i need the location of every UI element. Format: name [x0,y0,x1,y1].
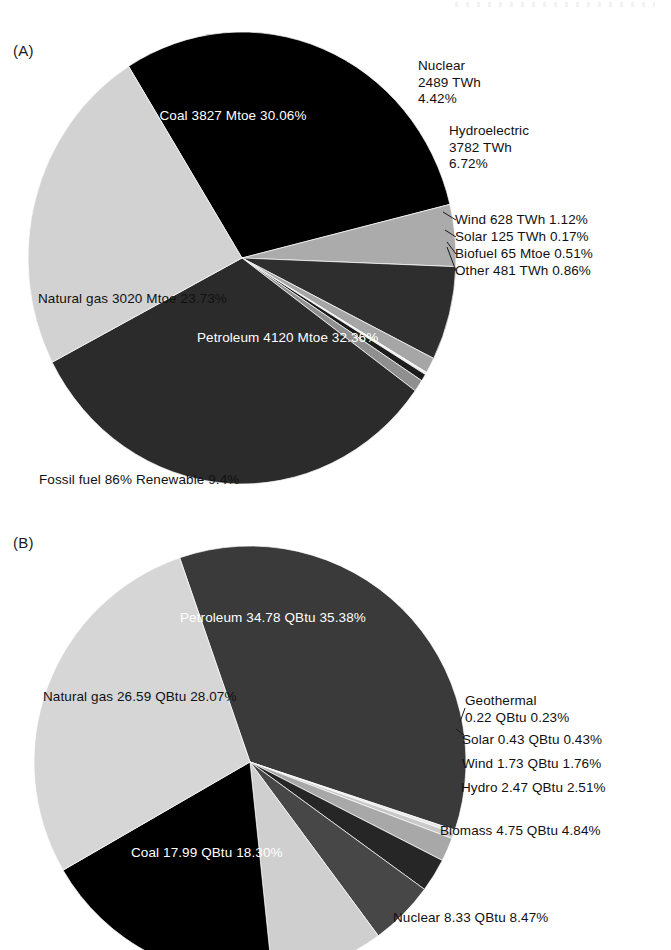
panel-b: (B) Petroleum 34.78 QBtu 35.38% Natural … [0,510,671,950]
slice-label-coal-b: Coal 17.99 QBtu 18.30% [131,845,281,862]
outer-label-nuclear-a: Nuclear 2489 TWh 4.42% [418,58,481,108]
outer-label-solar-a: Solar 125 TWh 0.17% [455,229,589,246]
outer-label-other-a: Other 481 TWh 0.86% [455,263,591,280]
outer-label-hydroelectric-a: Hydroelectric 3782 TWh 6.72% [449,123,529,173]
leader-lines-a [425,200,465,290]
outer-label-hydro-b: Hydro 2.47 QBtu 2.51% [461,780,606,797]
slice-label-petroleum-b: Petroleum 34.78 QBtu 35.38% [180,610,350,627]
outer-label-biomass-b: Biomass 4.75 QBtu 4.84% [440,823,601,840]
outer-label-nuclear-b: Nuclear 8.33 QBtu 8.47% [393,910,548,927]
slice-label-natural-gas-a: Natural gas 3020 Mtoe 23.73% [38,291,227,308]
panel-a: (A) Coal 3827 Mtoe 30.06% Petroleum 4120… [0,0,671,510]
slice-label-petroleum-a: Petroleum 4120 Mtoe 32.36% [197,330,357,347]
pie-chart-b [0,510,671,950]
outer-label-biofuel-a: Biofuel 65 Mtoe 0.51% [455,246,593,263]
slice-label-natural-gas-b: Natural gas 26.59 QBtu 28.07% [43,689,237,706]
outer-label-wind-b: Wind 1.73 QBtu 1.76% [462,756,601,773]
outer-label-wind-a: Wind 628 TWh 1.12% [455,212,588,229]
outer-label-solar-b: Solar 0.43 QBtu 0.43% [462,732,602,749]
caption-a: Fossil fuel 86% Renewable 9.4% [39,472,239,487]
leader-lines-b [448,700,478,750]
outer-label-geothermal-b: Geothermal 0.22 QBtu 0.23% [465,693,569,726]
slice-label-coal-a: Coal 3827 Mtoe 30.06% [148,108,318,125]
